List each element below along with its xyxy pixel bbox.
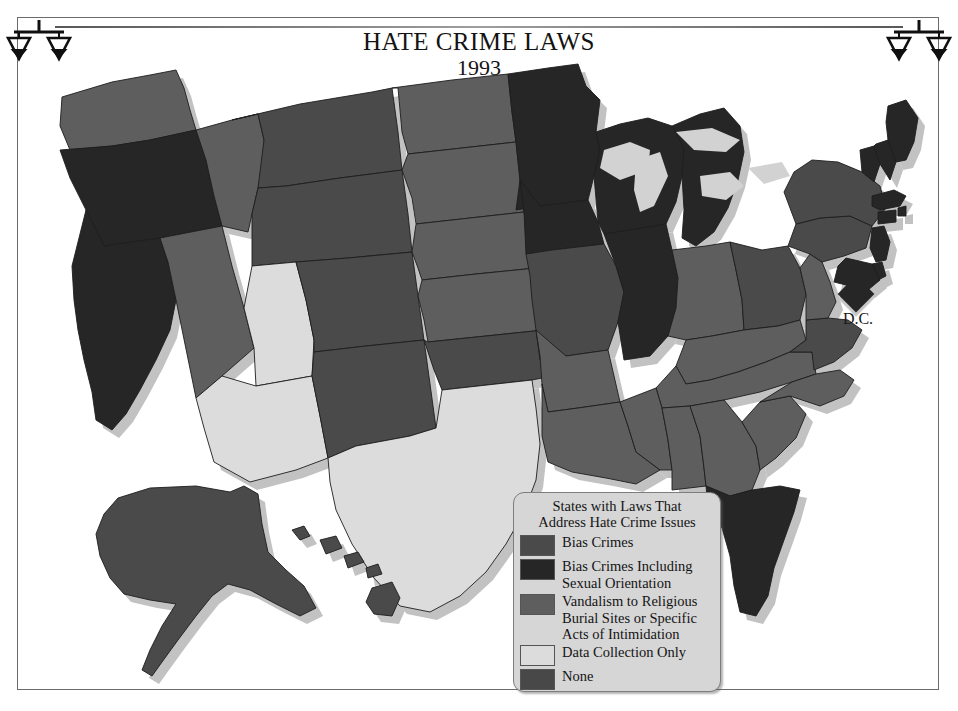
legend-item-data-collection-only: Data Collection Only bbox=[520, 643, 714, 666]
legend-swatch bbox=[520, 645, 555, 666]
state-ks bbox=[418, 268, 544, 342]
legend-item-none: None bbox=[520, 667, 714, 690]
legend-swatch bbox=[520, 535, 555, 556]
us-choropleth-map bbox=[0, 0, 958, 711]
map-legend: States with Laws That Address Hate Crime… bbox=[513, 492, 721, 692]
map-page: HATE CRIME LAWS 1993 D.C. States with La… bbox=[0, 0, 958, 711]
legend-swatch bbox=[520, 669, 555, 690]
state-ct bbox=[878, 210, 896, 224]
legend-items: Bias Crimes Bias Crimes Including Sexual… bbox=[520, 533, 714, 690]
legend-label: Bias Crimes bbox=[562, 533, 633, 550]
legend-label: Vandalism to Religious Burial Sites or S… bbox=[562, 592, 697, 642]
legend-swatch bbox=[520, 594, 555, 615]
state-in bbox=[668, 242, 744, 340]
legend-label: None bbox=[562, 667, 593, 684]
legend-label: Bias Crimes Including Sexual Orientation bbox=[562, 557, 693, 591]
us-map-svg bbox=[0, 0, 958, 711]
state-co bbox=[296, 252, 424, 352]
legend-item-bias-crimes-sexual-orientation: Bias Crimes Including Sexual Orientation bbox=[520, 557, 714, 591]
legend-item-vandalism: Vandalism to Religious Burial Sites or S… bbox=[520, 592, 714, 642]
state-ri bbox=[898, 206, 906, 216]
state-nd bbox=[392, 74, 516, 154]
legend-item-bias-crimes: Bias Crimes bbox=[520, 533, 714, 556]
legend-swatch bbox=[520, 559, 555, 580]
dc-label: D.C. bbox=[832, 310, 884, 328]
legend-label: Data Collection Only bbox=[562, 643, 686, 660]
state-sd bbox=[402, 142, 524, 224]
legend-title: States with Laws That Address Hate Crime… bbox=[520, 498, 714, 530]
